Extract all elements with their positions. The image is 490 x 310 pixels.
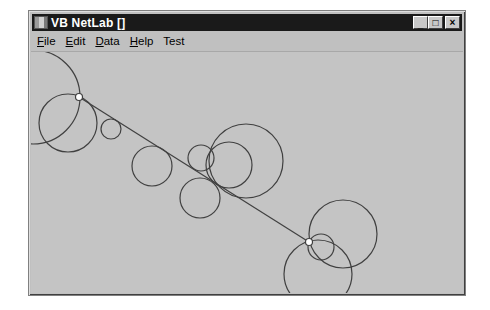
menu-help-rest: elp	[138, 35, 153, 47]
menu-edit[interactable]: Edit	[61, 35, 91, 47]
menu-file[interactable]: File	[32, 35, 61, 47]
title-bar[interactable]: VB NetLab [] _ □ ×	[32, 14, 462, 31]
menu-file-rest: ile	[44, 35, 56, 47]
network-node[interactable]	[306, 239, 313, 246]
range-circle	[209, 124, 283, 198]
minimize-button[interactable]: _	[413, 16, 428, 29]
maximize-button[interactable]: □	[428, 16, 443, 29]
menu-data-rest: ata	[104, 35, 120, 47]
menu-bar: File Edit Data Help Test	[32, 32, 462, 49]
maximize-icon: □	[432, 18, 438, 28]
window-controls: _ □ ×	[413, 16, 460, 29]
network-canvas-area[interactable]	[31, 51, 463, 293]
network-node[interactable]	[76, 94, 83, 101]
range-circle	[31, 52, 80, 144]
app-icon[interactable]	[34, 16, 48, 29]
menu-edit-rest: dit	[73, 35, 85, 47]
window-title: VB NetLab []	[51, 16, 125, 30]
minimize-icon: _	[418, 19, 424, 29]
network-link[interactable]	[79, 97, 309, 242]
close-icon: ×	[450, 18, 456, 28]
network-canvas[interactable]	[31, 52, 463, 293]
menu-test[interactable]: Test	[158, 35, 189, 47]
close-button[interactable]: ×	[445, 16, 460, 29]
range-circle	[284, 240, 352, 293]
app-window: VB NetLab [] _ □ × File Edit Data Help T…	[28, 10, 466, 296]
menu-data[interactable]: Data	[90, 35, 124, 47]
menu-help[interactable]: Help	[125, 35, 159, 47]
range-circle	[180, 178, 220, 218]
